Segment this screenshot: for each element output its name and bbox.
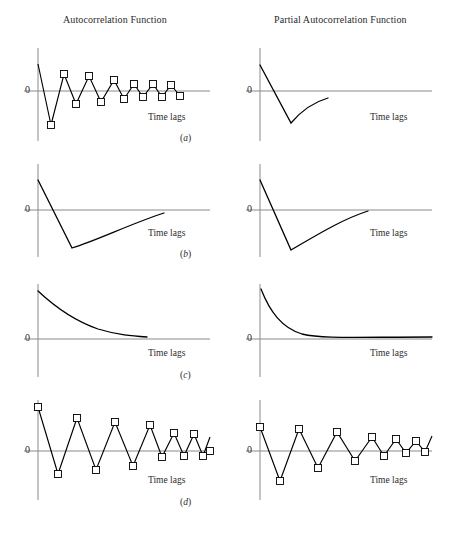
panel-c-caption-close: )	[187, 370, 190, 380]
panel-a-caption: (a)	[180, 133, 191, 143]
panel-d-acf-timelags-label: Time lags	[148, 475, 185, 485]
panel-b-acf-zero-label: 0	[25, 203, 30, 214]
panel-d-pacf-svg	[236, 392, 446, 510]
panel-a-pacf-chart	[236, 40, 446, 158]
panel-d-acf-zero-label: 0	[25, 444, 30, 455]
panel-c-pacf-zero-label: 0	[247, 332, 252, 343]
panel-b-acf-svg	[14, 156, 224, 274]
panel-d-pacf-timelags-label: Time lags	[370, 475, 407, 485]
panel-c-pacf-timelags-label: Time lags	[370, 348, 407, 358]
panel-a-acf-zero-label: 0	[25, 84, 30, 95]
panel-d-acf-svg	[14, 392, 224, 510]
panel-b-acf-chart	[14, 156, 224, 274]
column-title-pacf: Partial Autocorrelation Function	[274, 14, 407, 25]
panel-a-caption-close: )	[188, 133, 191, 143]
acf-series-line	[38, 407, 210, 474]
panel-c-pacf-svg	[236, 272, 446, 390]
pacf-series-curve	[261, 289, 432, 337]
panel-d-pacf-chart	[236, 392, 446, 510]
panel-b-caption: (b)	[180, 249, 191, 259]
pacf-series-curve	[260, 65, 328, 123]
panel-a-pacf-zero-label: 0	[247, 84, 252, 95]
pacf-series-curve	[260, 180, 368, 250]
panel-c-pacf-chart	[236, 272, 446, 390]
panel-b-acf-timelags-label: Time lags	[148, 228, 185, 238]
panel-c-acf-svg	[14, 272, 224, 390]
panel-a-pacf-timelags-label: Time lags	[370, 112, 407, 122]
panel-b-pacf-chart	[236, 156, 446, 274]
panel-d-pacf-zero-label: 0	[247, 444, 252, 455]
panel-b-caption-close: )	[188, 249, 191, 259]
panel-d-acf-chart	[14, 392, 224, 510]
acf-series-curve	[38, 291, 147, 337]
panel-b-pacf-zero-label: 0	[247, 203, 252, 214]
panel-a-pacf-svg	[236, 40, 446, 158]
acf-markers	[35, 404, 214, 478]
panel-c-acf-zero-label: 0	[25, 332, 30, 343]
figure-root: Autocorrelation Function Partial Autocor…	[0, 0, 453, 535]
panel-a-acf-svg	[14, 40, 224, 158]
acf-series-curve	[38, 180, 164, 248]
column-title-acf: Autocorrelation Function	[63, 14, 167, 25]
panel-a-acf-timelags-label: Time lags	[148, 112, 185, 122]
panel-a-acf-chart	[14, 40, 224, 158]
panel-c-acf-chart	[14, 272, 224, 390]
panel-b-pacf-svg	[236, 156, 446, 274]
panel-c-acf-timelags-label: Time lags	[148, 348, 185, 358]
panel-c-caption: (c)	[180, 370, 191, 380]
panel-d-caption: (d)	[180, 497, 191, 507]
panel-b-pacf-timelags-label: Time lags	[370, 228, 407, 238]
panel-d-caption-close: )	[188, 497, 191, 507]
